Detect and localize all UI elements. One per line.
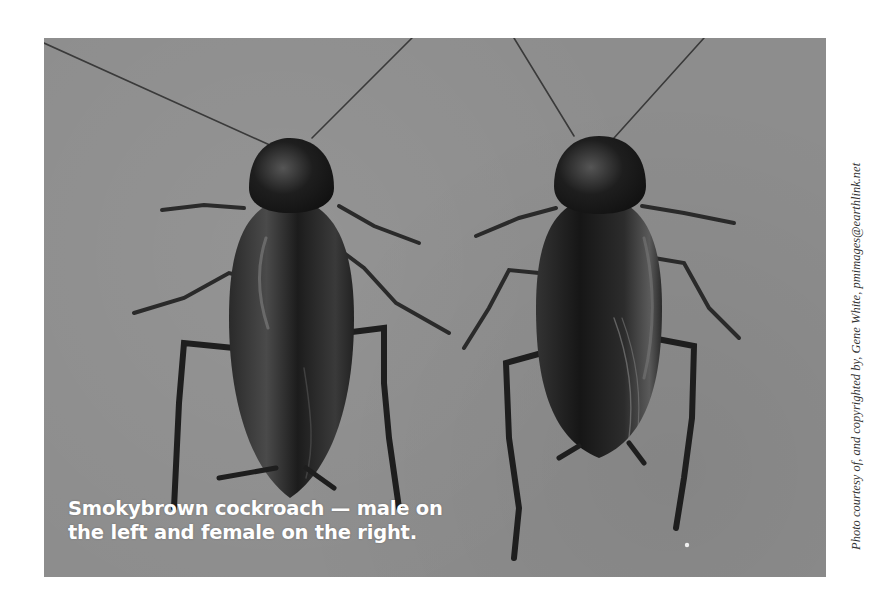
caption-line-2: the left and female on the right. bbox=[68, 521, 443, 545]
male-cockroach bbox=[44, 38, 449, 508]
photo-credit-text: Photo courtesy of, and copyrighted by, G… bbox=[849, 163, 864, 550]
photo-caption: Smokybrown cockroach — male on the left … bbox=[68, 497, 443, 545]
caption-line-1: Smokybrown cockroach — male on bbox=[68, 497, 443, 521]
cockroach-photo: Smokybrown cockroach — male on the left … bbox=[44, 38, 826, 577]
female-cockroach bbox=[464, 38, 739, 558]
photo-credit: Photo courtesy of, and copyrighted by, G… bbox=[849, 40, 863, 560]
